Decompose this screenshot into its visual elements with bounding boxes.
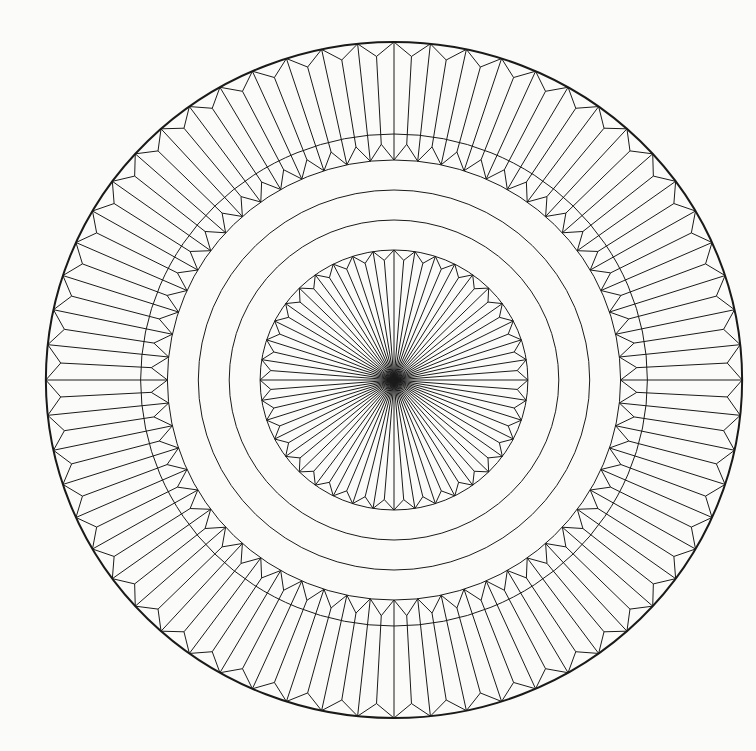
inner-disc-rays: [260, 250, 528, 510]
mandala-drawing: [0, 0, 756, 751]
mandala-geometry: [46, 42, 742, 718]
